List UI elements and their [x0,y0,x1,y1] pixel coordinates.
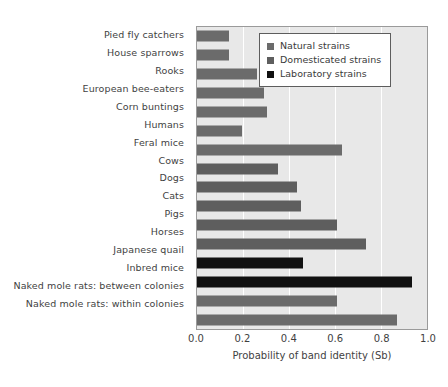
x-axis-title: Probability of band identity (Sb) [196,350,428,361]
bar [197,220,337,231]
y-axis-label: Horses [0,223,190,241]
x-axis-tick-label: 0.8 [374,333,390,344]
y-axis-label: Cows [0,151,190,169]
legend-swatch-icon [267,71,274,78]
bar [197,31,229,42]
y-axis-label: Naked mole rats: within colonies [0,294,190,312]
bar [197,50,229,61]
y-axis-label: Japanese quail [0,241,190,259]
y-axis-label: Humans [0,115,190,133]
legend-label: Laboratory strains [280,69,367,79]
bar-row [197,159,427,178]
bar [197,144,342,155]
legend-item[interactable]: Laboratory strains [267,67,381,81]
legend-swatch-icon [267,57,274,64]
bar-row [197,291,427,310]
bar [197,295,337,306]
y-axis-label: Naked mole rats: between colonies [0,276,190,294]
bar-row [197,254,427,273]
x-axis-tick-label: 0.0 [188,333,204,344]
legend-label: Domesticated strains [280,55,381,65]
legend-item[interactable]: Natural strains [267,39,381,53]
x-axis-ticks: 0.00.20.40.60.81.0 [196,333,428,347]
y-axis-label: Pied fly catchers [0,26,190,44]
bar [197,88,264,99]
bar [197,201,301,212]
y-axis-labels: Pied fly catchersHouse sparrowsRooksEuro… [0,26,190,330]
bar [197,182,297,193]
y-axis-label: Pigs [0,205,190,223]
y-axis-label: Corn buntings [0,98,190,116]
legend-swatch-icon [267,43,274,50]
x-axis-tick-label: 0.6 [327,333,343,344]
bar-row [197,103,427,122]
bar-row [197,140,427,159]
bar [197,163,278,174]
y-axis-label: Cats [0,187,190,205]
bar-row [197,197,427,216]
y-axis-label: Dogs [0,169,190,187]
legend-item[interactable]: Domesticated strains [267,53,381,67]
y-axis-label: House sparrows [0,44,190,62]
bar-chart: Pied fly catchersHouse sparrowsRooksEuro… [0,0,448,387]
legend-label: Natural strains [280,41,350,51]
y-axis-label: Feral mice [0,133,190,151]
bar [197,125,242,136]
x-axis-tick-label: 0.2 [234,333,250,344]
bar-row [197,235,427,254]
bar [197,239,366,250]
bar [197,257,303,268]
legend: Natural strainsDomesticated strainsLabor… [259,33,391,87]
bar [197,276,412,287]
x-axis-tick-label: 0.4 [281,333,297,344]
bar [197,314,397,325]
y-axis-label: Inbred mice [0,258,190,276]
bar-row [197,178,427,197]
y-axis-label: European bee-eaters [0,80,190,98]
bar [197,69,257,80]
bar-row [197,272,427,291]
bar [197,106,267,117]
bar-row [197,216,427,235]
x-axis-tick-label: 1.0 [420,333,436,344]
bar-row [197,310,427,329]
y-axis-label: Rooks [0,62,190,80]
bar-row [197,121,427,140]
